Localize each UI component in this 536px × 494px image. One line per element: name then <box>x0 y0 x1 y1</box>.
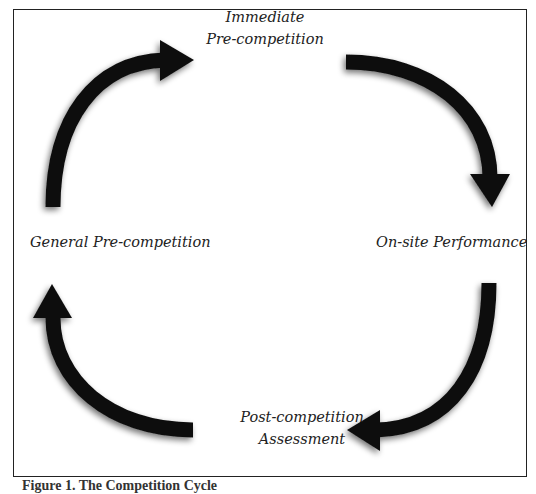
stage-label-immediate: Immediate Pre-competition <box>204 6 326 50</box>
arrow-immediate-to-onsite-icon <box>346 62 510 207</box>
stage-label-line: Post-competition <box>232 406 372 428</box>
stage-label-line: On-site Performance <box>376 231 527 253</box>
stage-label-line: Assessment <box>232 428 372 450</box>
stage-label-line: General Pre-competition <box>30 231 211 253</box>
stage-label-line: Pre-competition <box>204 28 326 50</box>
arrow-general-to-immediate-icon <box>53 40 194 207</box>
stage-label-post: Post-competition Assessment <box>232 406 372 450</box>
figure-caption: Figure 1. The Competition Cycle <box>22 478 217 494</box>
arrow-post-to-general-icon <box>33 284 193 430</box>
stage-label-onsite: On-site Performance <box>376 231 527 253</box>
stage-label-line: Immediate <box>204 6 326 28</box>
stage-label-general: General Pre-competition <box>30 231 211 253</box>
